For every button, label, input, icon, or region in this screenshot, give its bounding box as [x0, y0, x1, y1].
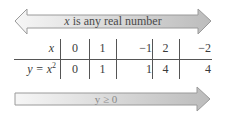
- table-cell: 1: [89, 60, 116, 79]
- table-data-row: y = x2 0 1 1 4 4: [14, 60, 212, 79]
- table-cell: 4: [179, 60, 211, 79]
- column-divider: [179, 39, 180, 79]
- domain-label: x is any real number: [14, 14, 212, 28]
- column-divider: [152, 39, 153, 79]
- header-x-label: x: [14, 39, 54, 58]
- value-table: x 0 1 −1 2 −2 y = x2 0 1 1 4 4: [14, 39, 212, 79]
- table-cell: 0: [61, 60, 89, 79]
- table-cell: −2: [179, 39, 211, 58]
- range-label: y ≥ 0: [15, 92, 197, 106]
- table-cell: −1: [116, 39, 152, 58]
- table-header-row: x 0 1 −1 2 −2: [14, 39, 212, 58]
- column-divider: [89, 39, 90, 79]
- row-label-y-equals-x-squared: y = x2: [14, 60, 56, 79]
- table-cell: 1: [116, 60, 152, 79]
- table-cell: 2: [152, 39, 179, 58]
- table-cell: 0: [61, 39, 89, 58]
- column-divider: [116, 39, 117, 79]
- column-divider: [60, 39, 61, 79]
- table-cell: 4: [152, 60, 179, 79]
- table-cell: 1: [89, 39, 116, 58]
